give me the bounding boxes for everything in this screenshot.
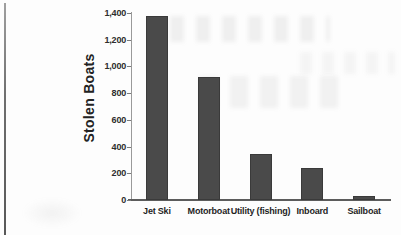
y-tick-mark [127, 200, 131, 201]
y-tick-label: 600 [88, 115, 126, 125]
y-tick-label: 1,400 [88, 8, 126, 18]
y-tick-label: 800 [88, 88, 126, 98]
bar-sailboat [353, 196, 375, 200]
bar-jet-ski [146, 16, 168, 200]
stolen-boats-bar-chart: Stolen Boats 02004006008001,0001,2001,40… [0, 0, 401, 235]
bar-utility-fishing [250, 154, 272, 200]
y-tick-label: 200 [88, 168, 126, 178]
plot-area [131, 13, 390, 200]
y-tick-label: 1,200 [88, 35, 126, 45]
bar-motorboat [198, 77, 220, 200]
x-category-label: Sailboat [322, 206, 401, 216]
scanned-page: Stolen Boats 02004006008001,0001,2001,40… [0, 0, 401, 235]
bar-inboard [301, 168, 323, 200]
y-tick-label: 400 [88, 142, 126, 152]
y-tick-label: 1,000 [88, 61, 126, 71]
y-tick-label: 0 [88, 195, 126, 205]
